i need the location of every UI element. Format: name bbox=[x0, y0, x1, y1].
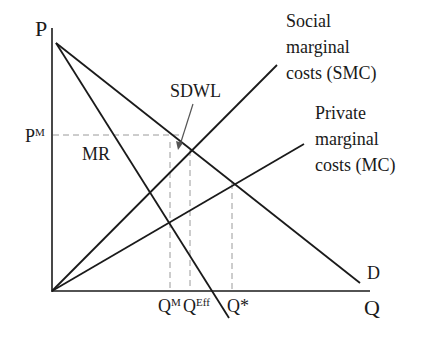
sdwl-arrow bbox=[180, 104, 193, 145]
demand-label: D bbox=[367, 263, 380, 283]
qm-label: QM bbox=[158, 296, 181, 316]
mc-label: Private marginal costs (MC) bbox=[315, 103, 396, 176]
qstar-label: Q* bbox=[227, 296, 249, 316]
x-axis-label: Q bbox=[364, 295, 380, 320]
y-axis-label: P bbox=[35, 16, 47, 41]
private-marginal-cost-curve bbox=[52, 144, 304, 291]
sdwl-label: SDWL bbox=[170, 81, 221, 101]
economics-diagram: P Q PM MR SDWL D Social marginal costs (… bbox=[0, 0, 432, 338]
pm-label: PM bbox=[25, 126, 45, 146]
social-marginal-cost-curve bbox=[52, 65, 277, 291]
mr-label: MR bbox=[82, 144, 110, 164]
qeff-label: QEff bbox=[183, 296, 210, 316]
smc-label: Social marginal costs (SMC) bbox=[286, 11, 377, 84]
